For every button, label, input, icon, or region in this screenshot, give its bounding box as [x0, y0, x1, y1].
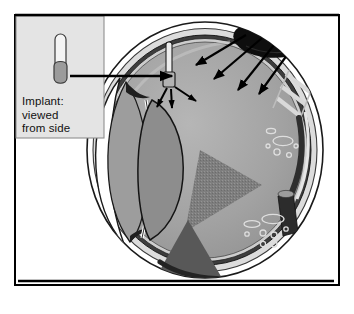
posterior-block-cap — [278, 190, 294, 197]
inset-caption-line-3: from side — [22, 122, 70, 134]
inset-caption: Implant: viewed from side — [22, 95, 70, 136]
implant-icon-bulb — [54, 62, 67, 84]
implant-side-view-icon — [54, 34, 67, 83]
inset-caption-line-1: Implant: — [22, 95, 64, 107]
figure-canvas: Implant: viewed from side — [0, 0, 354, 314]
inset-caption-line-2: viewed — [22, 109, 58, 121]
implant-shaft — [166, 42, 172, 74]
eye-diagram-svg — [0, 0, 354, 314]
implant-head — [163, 72, 175, 87]
implant-arrow-2 — [171, 89, 172, 108]
